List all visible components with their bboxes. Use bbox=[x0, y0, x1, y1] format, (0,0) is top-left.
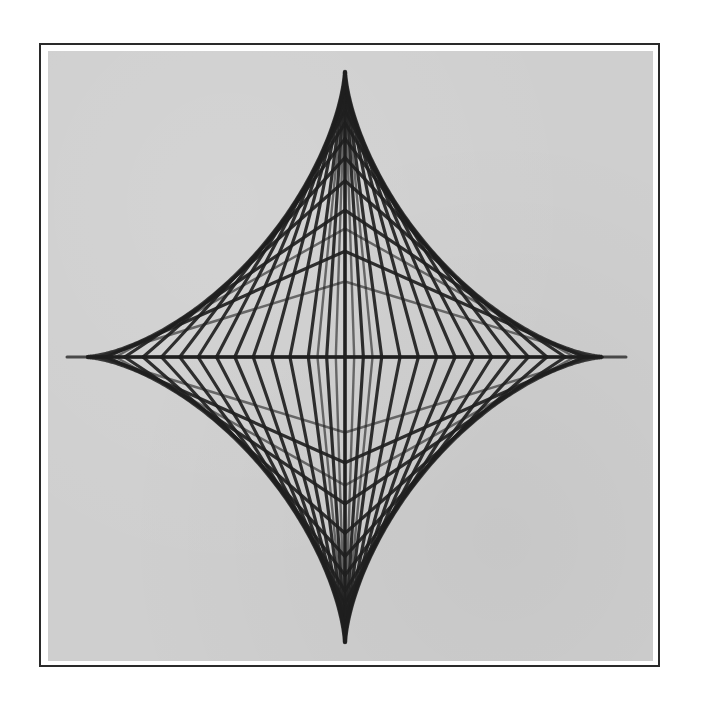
astroid-segments bbox=[88, 72, 602, 642]
astroid-figure bbox=[0, 0, 704, 711]
